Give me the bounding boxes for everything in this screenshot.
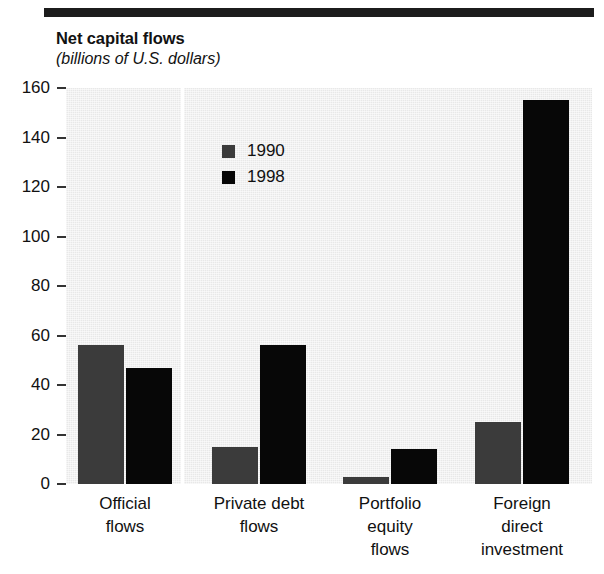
legend-label-1998: 1998 (247, 167, 285, 187)
bar-1990-1 (212, 447, 258, 484)
y-axis-tick-mark (57, 236, 66, 238)
chart-subtitle: (billions of U.S. dollars) (56, 49, 476, 69)
bar-1998-0 (126, 368, 172, 484)
y-axis: 160140120100806040200 (0, 88, 66, 484)
y-axis-tick-mark (57, 434, 66, 436)
y-axis-tick-mark (57, 483, 66, 485)
bar-1990-2 (343, 477, 389, 484)
y-axis-tick-mark (57, 137, 66, 139)
chart-legend: 1990 1998 (222, 138, 285, 190)
y-axis-tick-label: 60 (31, 325, 50, 346)
x-axis-labels: OfficialflowsPrivate debtflowsPortfolioe… (66, 492, 592, 572)
x-axis-category-label: Foreigndirectinvestment (442, 492, 602, 561)
y-axis-tick-label: 140 (22, 127, 50, 148)
y-axis-tick-mark (57, 384, 66, 386)
y-axis-tick-label: 40 (31, 374, 50, 395)
legend-swatch-1998-icon (222, 171, 235, 184)
bar-1990-3 (475, 422, 521, 484)
bar-1998-3 (523, 100, 569, 484)
bar-1998-1 (260, 345, 306, 484)
legend-swatch-1990-icon (222, 145, 235, 158)
legend-item-1998: 1998 (222, 164, 285, 190)
chart-title: Net capital flows (56, 28, 476, 48)
y-axis-tick-label: 80 (31, 275, 50, 296)
y-axis-tick-mark (57, 285, 66, 287)
top-rule-divider (44, 8, 594, 17)
bar-1998-2 (391, 449, 437, 484)
y-axis-tick-mark (57, 87, 66, 89)
legend-label-1990: 1990 (247, 141, 285, 161)
y-axis-tick-mark (57, 186, 66, 188)
legend-item-1990: 1990 (222, 138, 285, 164)
y-axis-tick-label: 100 (22, 226, 50, 247)
y-axis-tick-label: 160 (22, 77, 50, 98)
y-axis-tick-label: 20 (31, 424, 50, 445)
chart-heading: Net capital flows (billions of U.S. doll… (56, 28, 476, 69)
y-axis-tick-label: 120 (22, 176, 50, 197)
x-axis-category-line: direct (442, 515, 602, 538)
group-separator (181, 88, 184, 484)
y-axis-tick-mark (57, 335, 66, 337)
x-axis-category-line: investment (442, 538, 602, 561)
plot-area (66, 88, 592, 484)
y-axis-tick-label: 0 (41, 473, 50, 494)
bar-1990-0 (78, 345, 124, 484)
x-axis-category-line: Foreign (442, 492, 602, 515)
chart-figure: Net capital flows (billions of U.S. doll… (0, 0, 604, 574)
